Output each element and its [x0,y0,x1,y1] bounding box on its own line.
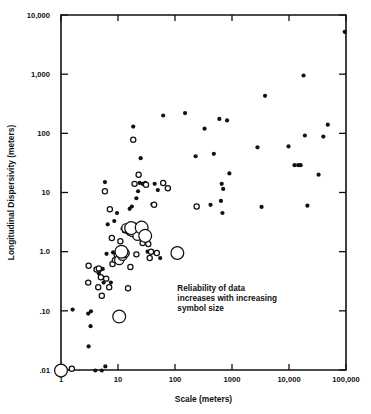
data-point [87,344,91,348]
y-tick-label: 100 [37,129,50,138]
data-point [321,135,325,139]
data-point [255,145,259,149]
data-point [161,113,165,117]
data-point [131,124,135,128]
data-point [96,266,101,271]
data-point [305,204,309,208]
annotation-line: Reliability of data [177,284,245,293]
data-point [147,255,152,260]
data-point [103,364,107,368]
x-tick-label: 1000 [224,375,241,384]
data-point [301,73,305,77]
y-tick-label: 1.0 [39,247,50,256]
data-point [113,310,126,323]
data-point [194,204,199,209]
y-tick-label: .10 [39,307,50,316]
data-point [125,286,130,291]
data-point [156,188,160,192]
data-point [115,245,128,258]
x-tick-label: 100 [169,375,182,384]
data-point [130,204,134,208]
data-point [139,156,143,160]
x-tick-label: 100,000 [332,375,359,384]
data-point [69,366,74,371]
data-point [343,30,347,34]
data-point [115,211,119,215]
data-point [102,189,107,194]
data-point [202,127,206,131]
data-point [143,182,148,187]
data-point [132,181,137,186]
data-point [103,180,107,184]
data-point [316,173,320,177]
data-point [71,307,75,311]
data-point [326,123,330,127]
data-point [220,211,224,215]
data-point [219,199,223,203]
annotation-group: Reliability of dataincreases with increa… [177,284,277,313]
data-point [136,172,141,177]
y-tick-label: .01 [39,366,50,375]
data-point [165,186,170,191]
data-point [104,252,108,256]
data-point [88,324,92,328]
data-point [107,285,112,290]
data-point [183,111,187,115]
y-tick-label: 10 [42,188,50,197]
data-point [107,207,112,212]
data-point [148,249,153,254]
data-point [128,264,133,269]
annotation-line: symbol size [177,304,224,313]
data-point [112,219,116,223]
data-points [55,30,347,377]
series-open-large [55,221,184,377]
data-point [208,203,212,207]
x-tick-label: 10,000 [277,375,300,384]
y-tick-label: 1,000 [31,70,50,79]
plot-canvas: .01.101.0101001,00010,000110100100010,00… [0,0,371,414]
data-point [161,180,166,185]
data-point [86,280,91,285]
data-point [171,247,184,260]
data-point [263,94,267,98]
data-point [299,163,303,167]
data-point [134,196,138,200]
data-point [106,222,110,226]
data-point [303,133,307,137]
data-point [93,368,97,372]
data-point [152,202,157,207]
y-tick-label: 10,000 [27,11,50,20]
data-point [212,152,216,156]
data-point [136,189,140,193]
data-point [98,275,103,280]
series-filled-small [71,30,347,373]
data-point [96,285,101,290]
data-point [225,118,229,122]
data-point [158,256,162,260]
data-point [221,187,225,191]
data-point [99,293,104,298]
y-axis-title: Longitudinal Dispersivity (meters) [6,125,16,261]
scatter-plot-figure: .01.101.0101001,00010,000110100100010,00… [0,0,371,414]
data-point [118,239,123,244]
data-point [89,309,93,313]
data-point [109,281,113,285]
x-tick-label: 10 [114,375,122,384]
data-point [109,235,114,240]
annotation-line: increases with increasing [177,294,277,303]
data-point [292,163,296,167]
data-point [194,154,198,158]
data-point [217,117,221,121]
data-point [100,368,104,372]
data-point [227,171,231,175]
data-point [220,182,224,186]
data-point [154,250,159,255]
data-point [286,144,290,148]
data-point [259,205,263,209]
data-point [104,276,109,281]
data-point [153,182,157,186]
data-point [86,263,91,268]
x-axis-title: Scale (meters) [175,394,232,404]
data-point [131,137,136,142]
data-point [139,229,152,242]
